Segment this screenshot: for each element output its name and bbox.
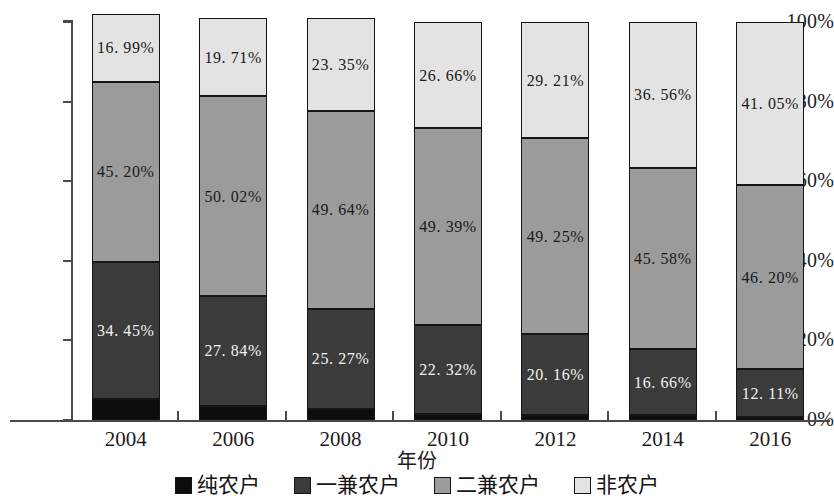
bar-segment[interactable]: 25. 27%	[307, 309, 375, 410]
bar-segment-value-label: 50. 02%	[204, 188, 262, 205]
bar-column[interactable]: 16. 66%45. 58%36. 56%	[629, 22, 697, 420]
bar-segment-value-label: 49. 25%	[527, 228, 585, 245]
legend-item[interactable]: 二兼农户	[434, 474, 540, 496]
legend-item-label: 纯农户	[197, 474, 260, 496]
bar-segment-value-label: 49. 39%	[419, 218, 477, 235]
bar-segment-value-label: 26. 66%	[419, 67, 477, 84]
legend-item-label: 非农户	[596, 474, 659, 496]
legend-item[interactable]: 一兼农户	[294, 474, 400, 496]
bar-segment-value-label: 19. 71%	[204, 49, 262, 66]
bar-segment[interactable]: 45. 20%	[92, 82, 160, 262]
bar-segment-value-label: 25. 27%	[312, 350, 370, 367]
bar-segment[interactable]: 12. 11%	[736, 369, 804, 417]
bar-segment-value-label: 29. 21%	[527, 72, 585, 89]
bar-segment-value-label: 41. 05%	[742, 95, 800, 112]
bar-segment-value-label: 22. 32%	[419, 361, 477, 378]
y-axis-tick	[63, 21, 72, 23]
legend-item-label: 二兼农户	[456, 474, 540, 496]
bar-segment[interactable]	[92, 399, 160, 420]
plot-area: 34. 45%45. 20%16. 99%27. 84%50. 02%19. 7…	[72, 22, 824, 420]
bar-column[interactable]: 12. 11%46. 20%41. 05%	[736, 22, 804, 420]
bar-segment-value-label: 16. 66%	[634, 374, 692, 391]
x-axis-tick-label: 2016	[720, 428, 820, 450]
bar-segment[interactable]: 49. 25%	[521, 138, 589, 334]
bar-segment-value-label: 27. 84%	[204, 342, 262, 359]
y-axis-tick	[63, 101, 72, 103]
bar-segment[interactable]	[414, 414, 482, 420]
legend-item[interactable]: 非农户	[574, 474, 659, 496]
bar-column[interactable]: 34. 45%45. 20%16. 99%	[92, 22, 160, 420]
bar-segment-value-label: 45. 20%	[97, 163, 155, 180]
bar-segment[interactable]: 45. 58%	[629, 168, 697, 349]
bar-segment[interactable]	[307, 409, 375, 420]
x-axis-title: 年份	[0, 450, 834, 472]
bar-segment[interactable]	[629, 415, 697, 420]
x-axis-tick-label: 2008	[291, 428, 391, 450]
bar-segment-value-label: 46. 20%	[742, 269, 800, 286]
bar-segment[interactable]: 20. 16%	[521, 334, 589, 414]
stacked-bar-chart: 0%20%40%60%80%100% 200420062008201020122…	[0, 0, 834, 498]
y-axis-tick	[63, 260, 72, 262]
bar-segment[interactable]: 41. 05%	[736, 22, 804, 185]
bar-column[interactable]: 27. 84%50. 02%19. 71%	[199, 22, 267, 420]
bar-column[interactable]: 22. 32%49. 39%26. 66%	[414, 22, 482, 420]
bar-segment-value-label: 23. 35%	[312, 56, 370, 73]
bar-segment-value-label: 45. 58%	[634, 250, 692, 267]
chart-legend: 纯农户一兼农户二兼农户非农户	[0, 474, 834, 496]
bar-segment-value-label: 20. 16%	[527, 366, 585, 383]
bar-column[interactable]: 20. 16%49. 25%29. 21%	[521, 22, 589, 420]
bar-segment[interactable]: 34. 45%	[92, 262, 160, 399]
bar-segment[interactable]: 22. 32%	[414, 325, 482, 414]
y-axis-tick	[63, 180, 72, 182]
bar-segment-value-label: 36. 56%	[634, 86, 692, 103]
bar-segment-value-label: 49. 64%	[312, 201, 370, 218]
legend-swatch-icon	[294, 477, 311, 494]
legend-swatch-icon	[175, 477, 192, 494]
bar-segment-value-label: 12. 11%	[742, 385, 799, 402]
legend-item[interactable]: 纯农户	[175, 474, 260, 496]
bar-segment[interactable]	[521, 415, 589, 420]
x-axis-tick-label: 2010	[398, 428, 498, 450]
bar-segment[interactable]: 26. 66%	[414, 22, 482, 128]
bar-segment[interactable]	[199, 406, 267, 420]
bar-segment[interactable]: 29. 21%	[521, 22, 589, 138]
bar-segment-value-label: 34. 45%	[97, 322, 155, 339]
legend-swatch-icon	[574, 477, 591, 494]
bar-segment[interactable]: 36. 56%	[629, 22, 697, 168]
x-axis-tick-label: 2004	[76, 428, 176, 450]
legend-item-label: 一兼农户	[316, 474, 400, 496]
bar-segment[interactable]: 49. 64%	[307, 111, 375, 309]
legend-swatch-icon	[434, 477, 451, 494]
bar-segment[interactable]: 19. 71%	[199, 18, 267, 96]
x-axis-tick-label: 2012	[505, 428, 605, 450]
bar-segment[interactable]: 16. 99%	[92, 14, 160, 82]
y-axis-tick	[63, 339, 72, 341]
bar-segment[interactable]: 27. 84%	[199, 296, 267, 407]
bar-segment[interactable]: 46. 20%	[736, 185, 804, 369]
bar-segment[interactable]: 23. 35%	[307, 18, 375, 111]
bar-column[interactable]: 25. 27%49. 64%23. 35%	[307, 22, 375, 420]
x-axis-line	[10, 420, 830, 422]
bar-segment[interactable]: 50. 02%	[199, 96, 267, 295]
bar-segment[interactable]: 49. 39%	[414, 128, 482, 325]
x-axis-tick-label: 2006	[183, 428, 283, 450]
bar-segment-value-label: 16. 99%	[97, 39, 155, 56]
x-axis-tick-label: 2014	[613, 428, 713, 450]
bar-segment[interactable]: 16. 66%	[629, 349, 697, 415]
bar-segment[interactable]	[736, 417, 804, 420]
